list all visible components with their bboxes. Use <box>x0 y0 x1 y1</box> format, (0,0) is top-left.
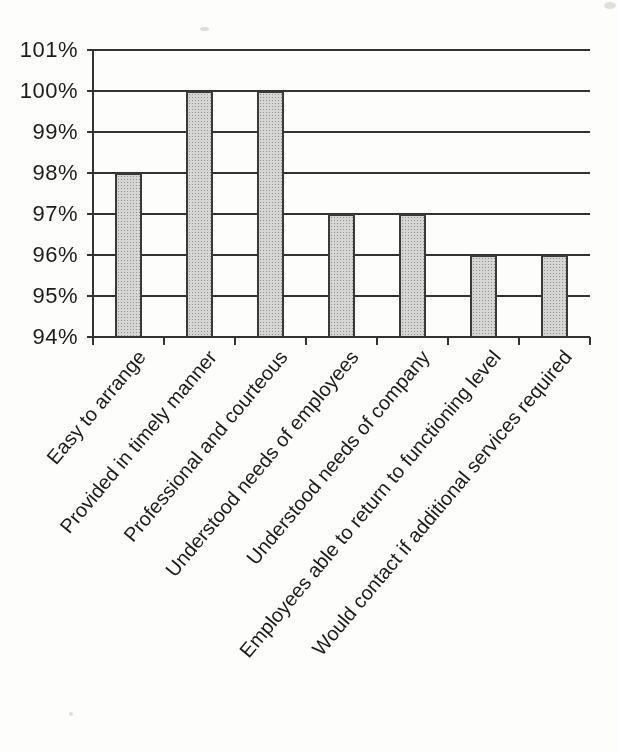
gridline <box>93 131 590 133</box>
x-axis-tick <box>447 337 449 345</box>
x-axis-tick <box>234 337 236 345</box>
y-tick-label: 95% <box>0 283 78 309</box>
y-tick-label: 97% <box>0 201 78 227</box>
x-axis-tick <box>163 337 165 345</box>
y-tick-label: 100% <box>0 78 78 104</box>
bar <box>328 214 355 337</box>
scan-artifact <box>604 2 616 9</box>
scan-artifact <box>69 712 73 716</box>
bar <box>541 255 568 337</box>
bar <box>470 255 497 337</box>
gridline <box>93 49 590 51</box>
y-tick-label: 99% <box>0 119 78 145</box>
scan-artifact <box>200 27 209 31</box>
bar <box>257 91 284 337</box>
y-tick-label: 94% <box>0 324 78 350</box>
category-label: Employees able to return to functioning … <box>235 346 505 662</box>
bar-chart: 94%95%96%97%98%99%100%101%Easy to arrang… <box>0 0 619 752</box>
gridline <box>93 90 590 92</box>
y-axis <box>92 50 94 338</box>
x-axis-tick <box>376 337 378 345</box>
bar <box>115 173 142 337</box>
x-axis <box>93 336 590 338</box>
bar <box>399 214 426 337</box>
y-tick-label: 101% <box>0 37 78 63</box>
category-label: Would contact if additional services req… <box>307 346 575 660</box>
x-axis-tick <box>518 337 520 345</box>
y-tick-label: 96% <box>0 242 78 268</box>
x-axis-tick <box>589 337 591 345</box>
x-axis-tick <box>92 337 94 345</box>
gridline <box>93 172 590 174</box>
bar <box>186 91 213 337</box>
x-axis-tick <box>305 337 307 345</box>
y-tick-label: 98% <box>0 160 78 186</box>
